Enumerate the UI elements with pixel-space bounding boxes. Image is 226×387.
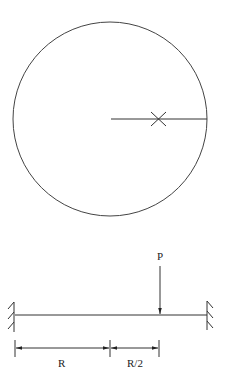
left-fixed-support-icon	[8, 302, 14, 332]
diagram-canvas: P R R/2	[0, 0, 226, 387]
load-label: P	[157, 250, 163, 262]
circular-plate	[13, 22, 207, 216]
fixed-beam: P	[8, 250, 213, 332]
dimension-label-r-half: R/2	[127, 357, 143, 369]
dimension-label-r: R	[58, 357, 66, 369]
right-fixed-support-icon	[207, 301, 213, 330]
dimension-lines: R R/2	[15, 340, 159, 369]
